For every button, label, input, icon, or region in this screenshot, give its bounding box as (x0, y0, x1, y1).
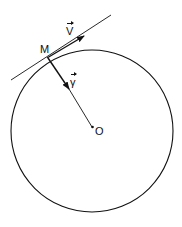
trajectory-circle (11, 50, 173, 212)
tangent-line (11, 15, 111, 80)
center-dot (91, 126, 94, 129)
velocity-vector-symbol: V (66, 26, 73, 37)
diagram-svg (0, 0, 182, 227)
point-m-label: M (40, 44, 49, 55)
acceleration-label: γ (70, 77, 76, 88)
velocity-label: V (66, 26, 73, 37)
acceleration-arrow (48, 58, 69, 89)
acceleration-vector-symbol: γ (70, 77, 76, 88)
diagram-canvas: M V γ O (0, 0, 182, 227)
center-o-label: O (95, 126, 104, 137)
radius-line (69, 89, 92, 127)
